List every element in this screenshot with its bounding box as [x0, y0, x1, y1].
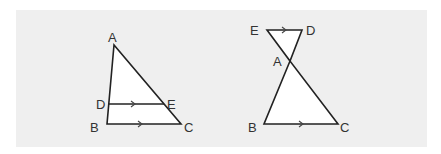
label-c-right: C	[340, 120, 349, 135]
label-e-left: E	[167, 97, 176, 112]
triangle-abc-right	[264, 61, 338, 124]
label-d-left: D	[96, 97, 105, 112]
right-figure: E D A B C	[248, 23, 349, 135]
label-d-right: D	[306, 23, 315, 38]
label-a-right: A	[273, 54, 282, 69]
label-b-right: B	[248, 120, 257, 135]
label-b-left: B	[90, 120, 99, 135]
left-figure: A D E B C	[90, 30, 193, 135]
label-e-right: E	[250, 23, 259, 38]
label-a-left: A	[108, 30, 117, 45]
label-c-left: C	[184, 120, 193, 135]
geometry-diagram: A D E B C E D A B C	[0, 0, 441, 154]
triangle-abc-left	[107, 45, 181, 124]
